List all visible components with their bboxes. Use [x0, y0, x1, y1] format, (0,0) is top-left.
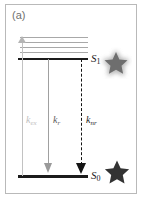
excitation-arrowhead-up-icon: [18, 36, 26, 43]
star-icon-excited: [100, 47, 132, 79]
rate-label-k-nr-subscript: nr: [90, 119, 96, 127]
radiative-arrowhead-down-icon: [44, 163, 52, 173]
energy-level-line-s0: [18, 175, 88, 178]
figure-panel: (a) S1 S0 kex kr knr: [0, 0, 142, 198]
vibrational-level-0: [20, 37, 88, 38]
nonradiative-arrow-shaft: [81, 59, 82, 165]
nonradiative-arrowhead-down-icon: [76, 163, 86, 174]
state-label-s0-subscript: 0: [97, 174, 101, 183]
rate-label-k-ex-subscript: ex: [30, 119, 36, 127]
star-icon-ground: [103, 158, 131, 186]
vibrational-level-1: [20, 42, 88, 43]
rate-label-k-nr: knr: [86, 115, 97, 128]
vibrational-level-3: [20, 52, 88, 53]
state-label-s0: S0: [91, 170, 101, 184]
energy-level-line-s1: [18, 58, 88, 60]
radiative-arrow-shaft: [48, 59, 49, 165]
excitation-arrow-shaft: [22, 42, 23, 176]
rate-label-k-r: kr: [53, 115, 60, 128]
rate-label-k-r-subscript: r: [57, 119, 60, 127]
panel-letter-label: (a): [12, 9, 25, 21]
vibrational-level-2: [20, 47, 88, 48]
rate-label-k-ex: kex: [26, 115, 37, 128]
